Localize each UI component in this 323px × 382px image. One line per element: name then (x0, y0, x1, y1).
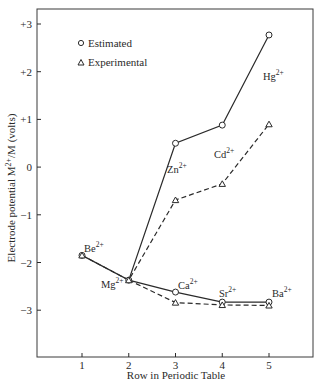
experimental-point-triangle-icon (266, 121, 272, 127)
x-tick-label: 1 (79, 359, 85, 371)
ion-label-hg: Hg2+ (263, 68, 284, 82)
y-tick-label: +3 (20, 18, 32, 30)
ion-label-cd: Cd2+ (214, 146, 234, 160)
ion-label-ca: Ca2+ (178, 277, 198, 291)
ion-label-be: Be2+ (84, 240, 104, 254)
legend: Estimated Experimental (78, 37, 147, 68)
y-tick-label: −3 (20, 304, 32, 316)
ion-labels: Hg2+Cd2+Zn2+Be2+Mg2+Ca2+Sr2+Ba2+ (84, 68, 292, 299)
experimental-triangle-icon (78, 60, 84, 66)
experimental-point-triangle-icon (172, 300, 178, 306)
ion-label-sr: Sr2+ (219, 285, 236, 299)
estimated-line (129, 280, 269, 302)
legend-estimated-label: Estimated (88, 37, 132, 49)
ion-label-zn: Zn2+ (167, 161, 187, 175)
legend-experimental-label: Experimental (88, 56, 147, 68)
estimated-circle-icon (78, 40, 83, 45)
y-axis-ticks: +3+2+10−1−2−3 (20, 18, 41, 316)
ion-label-ba: Ba2+ (272, 285, 292, 299)
electrode-potential-chart: +3+2+10−1−2−3 12345 Hg2+Cd2+Zn2+Be2+Mg2+… (0, 0, 323, 382)
estimated-point-circle-icon (266, 32, 272, 38)
estimated-point-circle-icon (173, 140, 179, 146)
x-axis-label: Row in Periodic Table (127, 369, 225, 381)
y-tick-label: +1 (20, 113, 32, 125)
x-tick-label: 5 (266, 359, 272, 371)
experimental-point-triangle-icon (219, 181, 225, 187)
y-tick-label: 0 (27, 161, 33, 173)
y-axis-label: Electrode potential M2+/M (volts) (4, 113, 18, 262)
estimated-line (82, 35, 269, 280)
estimated-point-circle-icon (219, 122, 225, 128)
y-tick-label: −2 (20, 257, 32, 269)
ion-label-mg: Mg2+ (101, 276, 124, 290)
y-tick-label: −1 (20, 209, 32, 221)
y-tick-label: +2 (20, 66, 32, 78)
